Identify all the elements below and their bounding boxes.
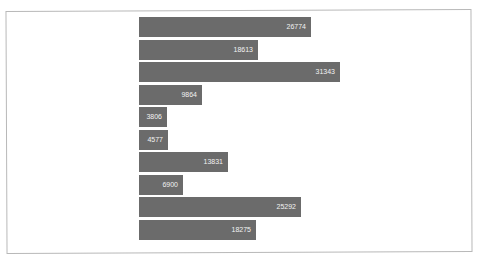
bar: 18275 [139, 220, 256, 240]
bar: 9864 [139, 85, 202, 105]
bar: 18613 [139, 40, 258, 60]
bar: 31343 [139, 62, 340, 82]
bar: 4577 [139, 130, 168, 150]
bar: 6900 [139, 175, 183, 195]
bar: 3806 [139, 107, 167, 127]
bar: 25292 [139, 197, 301, 217]
bar: 13831 [139, 152, 228, 172]
bar: 26774 [139, 17, 311, 37]
